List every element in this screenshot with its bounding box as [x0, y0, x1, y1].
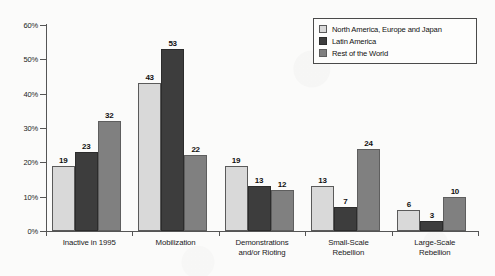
x-axis-category-label: Large-Scale Rebellion: [378, 238, 492, 258]
legend-item: Latin America: [319, 35, 471, 47]
legend-item-label: Latin America: [332, 37, 376, 46]
x-axis-tick: [478, 231, 479, 236]
bar: 19: [225, 166, 248, 231]
legend-item-label: Rest of the World: [332, 49, 388, 58]
chart-legend: North America, Europe and Japan Latin Am…: [313, 18, 477, 64]
bar: 3: [420, 221, 443, 231]
y-axis-tick-label: 60%: [4, 21, 38, 30]
bar-value-label: 32: [105, 111, 113, 120]
grouped-bar-chart: 0%10%20%30%40%50%60% North America, Euro…: [0, 0, 495, 276]
legend-item: Rest of the World: [319, 47, 471, 59]
bar-value-label: 19: [232, 156, 240, 165]
bar: 22: [184, 155, 207, 231]
y-axis-tick-label: 20%: [4, 158, 38, 167]
legend-swatch-medium-gray: [319, 49, 327, 57]
bar-value-label: 43: [145, 73, 153, 82]
bar-value-label: 6: [407, 200, 411, 209]
y-axis-tick-label: 10%: [4, 193, 38, 202]
y-axis-tick: [40, 128, 46, 129]
bar-value-label: 12: [278, 180, 286, 189]
bar: 23: [75, 152, 98, 231]
x-axis-tick: [392, 231, 393, 236]
bar: 24: [357, 149, 380, 231]
y-axis-tick: [40, 94, 46, 95]
legend-item-label: North America, Europe and Japan: [332, 25, 442, 34]
legend-swatch-dark-gray: [319, 37, 327, 45]
bar-value-label: 22: [191, 145, 199, 154]
bar-value-label: 10: [451, 187, 459, 196]
y-axis-tick: [40, 197, 46, 198]
bar: 13: [311, 186, 334, 231]
bar-value-label: 7: [343, 197, 347, 206]
y-axis-tick: [40, 25, 46, 26]
x-axis-tick: [219, 231, 220, 236]
x-axis-tick: [46, 231, 47, 236]
y-axis-tick-label: 40%: [4, 90, 38, 99]
bar: 7: [334, 207, 357, 231]
bar-value-label: 19: [59, 156, 67, 165]
bar-value-label: 24: [364, 139, 372, 148]
legend-item: North America, Europe and Japan: [319, 23, 471, 35]
bar-value-label: 23: [82, 142, 90, 151]
bar: 32: [98, 121, 121, 231]
y-axis-labels: 0%10%20%30%40%50%60%: [0, 0, 38, 276]
y-axis-tick-label: 50%: [4, 55, 38, 64]
bar: 19: [52, 166, 75, 231]
bar: 12: [271, 190, 294, 231]
bar-value-label: 53: [168, 39, 176, 48]
y-axis-tick: [40, 59, 46, 60]
x-axis-tick: [305, 231, 306, 236]
bar-value-label: 13: [318, 176, 326, 185]
x-axis-tick: [132, 231, 133, 236]
y-axis-tick-label: 30%: [4, 124, 38, 133]
bar-value-label: 3: [430, 211, 434, 220]
bar-value-label: 13: [255, 176, 263, 185]
bar: 43: [138, 83, 161, 231]
bar: 53: [161, 49, 184, 231]
bar: 10: [443, 197, 466, 231]
y-axis-tick-label: 0%: [4, 227, 38, 236]
bar: 13: [248, 186, 271, 231]
y-axis-tick: [40, 162, 46, 163]
legend-swatch-light-gray: [319, 25, 327, 33]
x-axis-line: [46, 231, 478, 232]
bar: 6: [397, 210, 420, 231]
